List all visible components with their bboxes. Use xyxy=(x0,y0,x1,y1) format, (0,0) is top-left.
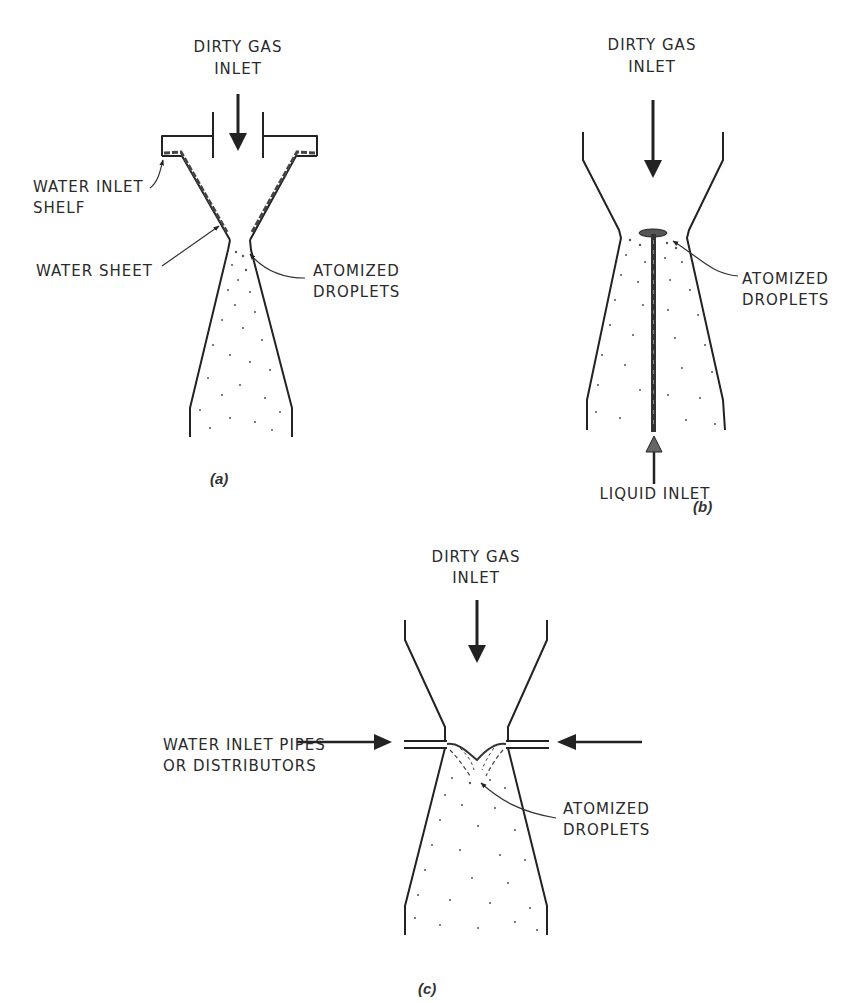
callout-water-inlet-shelf-line1: WATER INLET xyxy=(33,178,144,196)
gas-inlet-label-b-line2: INLET xyxy=(628,58,676,76)
panel-c: DIRTY GAS INLET xyxy=(163,548,650,997)
callout-water-inlet-pipes-line2: OR DISTRIBUTORS xyxy=(163,757,317,775)
gas-inlet-label-a-line1: DIRTY GAS xyxy=(194,38,283,56)
caption-a: (a) xyxy=(210,470,228,487)
callout-atomized-droplets-c-line1: ATOMIZED xyxy=(563,800,650,818)
callout-atomized-droplets-b-line1: ATOMIZED xyxy=(742,270,829,288)
callout-water-sheet: WATER SHEET xyxy=(36,262,153,280)
liquid-inlet-arrow-icon xyxy=(646,436,662,484)
gas-flow-arrow-icon xyxy=(468,600,486,663)
callout-atomized-droplets-b-line2: DROPLETS xyxy=(742,291,829,309)
gas-inlet-label-a-line2: INLET xyxy=(214,60,262,78)
gas-inlet-label-c-line1: DIRTY GAS xyxy=(432,548,521,566)
callout-water-inlet-pipes-line1: WATER INLET PIPES xyxy=(163,736,326,754)
water-inlet-arrow-right-icon xyxy=(557,734,642,750)
callout-atomized-droplets-a-line1: ATOMIZED xyxy=(313,262,400,280)
caption-c: (c) xyxy=(418,980,436,997)
gas-flow-arrow-icon xyxy=(644,100,662,178)
gas-inlet-label-b-line1: DIRTY GAS xyxy=(608,36,697,54)
venturi-body-c xyxy=(405,620,547,935)
venturi-scrubber-figure: DIRTY GAS INLET xyxy=(0,0,865,1003)
callout-atomized-droplets-c-line2: DROPLETS xyxy=(563,821,650,839)
venturi-body-a xyxy=(190,240,292,437)
gas-flow-arrow-icon xyxy=(229,94,247,151)
liquid-injection-tube xyxy=(639,229,667,432)
callout-atomized-droplets-a-line2: DROPLETS xyxy=(313,283,400,301)
gas-inlet-label-c-line2: INLET xyxy=(452,569,500,587)
panel-a: DIRTY GAS INLET xyxy=(33,38,400,487)
water-inlet-pipes xyxy=(404,741,549,776)
panel-b: DIRTY GAS INLET xyxy=(583,36,829,515)
caption-b: (b) xyxy=(693,498,712,515)
callout-water-inlet-shelf-line2: SHELF xyxy=(33,199,85,217)
droplets-a xyxy=(199,251,281,431)
